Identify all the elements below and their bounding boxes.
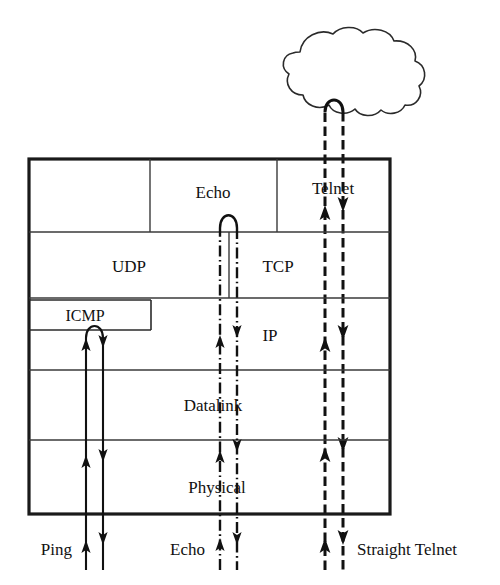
block-label-udp: UDP [112, 257, 146, 276]
block-label-echo: Echo [196, 183, 231, 202]
flow-label-ping: Ping [41, 540, 73, 559]
block-label-ip: IP [262, 326, 277, 345]
block-label-physical: Physical [188, 478, 246, 497]
protocol-stack-diagram: Echo Telnet UDP TCP ICMP IP Datalink Phy… [0, 0, 500, 585]
flow-label-straight-telnet: Straight Telnet [357, 540, 457, 559]
flow-ping [81, 326, 107, 570]
flow-straight-telnet [320, 100, 349, 570]
diagram-canvas: Echo Telnet UDP TCP ICMP IP Datalink Phy… [0, 0, 500, 585]
protocol-stack-frame [29, 159, 390, 514]
block-label-icmp: ICMP [65, 307, 104, 324]
flow-label-echo: Echo [170, 540, 205, 559]
network-cloud-icon [283, 27, 424, 115]
block-label-telnet: Telnet [312, 179, 355, 198]
arrowhead-echo-dn-out [232, 532, 241, 545]
arrowhead-telnet-up-ip [320, 337, 331, 352]
arrowhead-echo-dn-phys [232, 439, 241, 452]
block-label-tcp: TCP [262, 257, 293, 276]
arrowhead-telnet-up-phys [320, 447, 331, 462]
block-label-datalink: Datalink [184, 396, 243, 415]
